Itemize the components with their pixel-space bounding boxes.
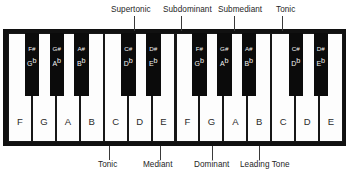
keyboard-frame: FGABCDEFGABCDEF#GbG#AbA#BbC#DbD#EbF#GbG#…: [3, 29, 346, 146]
black-key-flat-label: Ab: [51, 60, 64, 67]
white-key-label: B: [248, 116, 270, 127]
black-key-flat-label: Eb: [147, 60, 160, 67]
black-key-csharp-3[interactable]: C#Db: [121, 33, 136, 96]
black-key-sharp-label: G#: [51, 45, 64, 52]
black-key-sharp-label: F#: [193, 45, 206, 52]
bottom-leader-line: [212, 146, 213, 160]
top-leader-line: [234, 16, 235, 31]
black-key-dsharp-4[interactable]: D#Eb: [146, 33, 161, 96]
top-annotation-label-subdominant: Subdominant: [163, 5, 212, 15]
top-annotation-label-tonic: Tonic: [276, 5, 295, 15]
white-key-label: B: [81, 116, 103, 127]
flat-symbol-icon: b: [321, 56, 325, 65]
black-key-sharp-label: F#: [26, 45, 39, 52]
black-key-flat-label: Gb: [193, 60, 206, 67]
bottom-annotation-label-dominant: Dominant: [194, 160, 229, 170]
flat-symbol-icon: b: [57, 56, 61, 65]
bottom-leader-line: [109, 146, 110, 160]
bottom-annotation-label-mediant: Mediant: [143, 160, 172, 170]
black-key-fsharp-5[interactable]: F#Gb: [192, 33, 207, 96]
white-key-label: C: [105, 116, 127, 127]
top-leader-line: [282, 16, 283, 31]
black-key-asharp-7[interactable]: A#Bb: [242, 33, 257, 96]
bottom-annotation-label-leading-tone: Leading Tone: [240, 160, 290, 170]
flat-symbol-icon: b: [296, 56, 300, 65]
top-leader-line: [181, 16, 182, 31]
flat-symbol-icon: b: [225, 56, 229, 65]
white-key-label: E: [320, 116, 342, 127]
white-key-label: D: [296, 116, 318, 127]
bottom-annotation-label-tonic: Tonic: [98, 160, 117, 170]
key-bed: FGABCDEFGABCDEF#GbG#AbA#BbC#DbD#EbF#GbG#…: [8, 33, 343, 142]
black-key-flat-label: Bb: [243, 60, 256, 67]
top-leader-line: [134, 16, 135, 31]
black-key-csharp-8[interactable]: C#Db: [289, 33, 304, 96]
white-key-label: E: [153, 116, 175, 127]
black-key-asharp-2[interactable]: A#Bb: [74, 33, 89, 96]
white-key-label: C: [272, 116, 294, 127]
black-key-sharp-label: D#: [315, 45, 328, 52]
black-key-sharp-label: C#: [122, 45, 135, 52]
white-key-label: F: [177, 116, 199, 127]
black-key-flat-label: Db: [290, 60, 303, 67]
black-key-fsharp-0[interactable]: F#Gb: [25, 33, 40, 96]
black-key-gsharp-1[interactable]: G#Ab: [50, 33, 65, 96]
black-key-sharp-label: A#: [75, 45, 88, 52]
black-key-sharp-label: A#: [243, 45, 256, 52]
black-key-flat-label: Gb: [26, 60, 39, 67]
black-key-flat-label: Db: [122, 60, 135, 67]
bottom-leader-line: [160, 146, 161, 160]
black-key-flat-label: Bb: [75, 60, 88, 67]
black-key-sharp-label: G#: [218, 45, 231, 52]
white-key-label: F: [9, 116, 31, 127]
black-key-sharp-label: D#: [147, 45, 160, 52]
white-key-label: A: [224, 116, 246, 127]
white-key-label: A: [57, 116, 79, 127]
flat-symbol-icon: b: [32, 56, 36, 65]
bottom-leader-line: [259, 146, 260, 160]
white-key-label: G: [33, 116, 55, 127]
flat-symbol-icon: b: [82, 56, 86, 65]
black-key-dsharp-9[interactable]: D#Eb: [314, 33, 329, 96]
top-annotation-label-submediant: Submediant: [218, 5, 262, 15]
black-key-flat-label: Eb: [315, 60, 328, 67]
white-key-label: D: [129, 116, 151, 127]
flat-symbol-icon: b: [200, 56, 204, 65]
white-key-label: G: [200, 116, 222, 127]
flat-symbol-icon: b: [154, 56, 158, 65]
flat-symbol-icon: b: [249, 56, 253, 65]
black-key-flat-label: Ab: [218, 60, 231, 67]
flat-symbol-icon: b: [129, 56, 133, 65]
black-key-sharp-label: C#: [290, 45, 303, 52]
piano-keyboard-diagram: FGABCDEFGABCDEF#GbG#AbA#BbC#DbD#EbF#GbG#…: [0, 0, 349, 176]
top-annotation-label-supertonic: Supertonic: [111, 5, 151, 15]
black-key-gsharp-6[interactable]: G#Ab: [217, 33, 232, 96]
